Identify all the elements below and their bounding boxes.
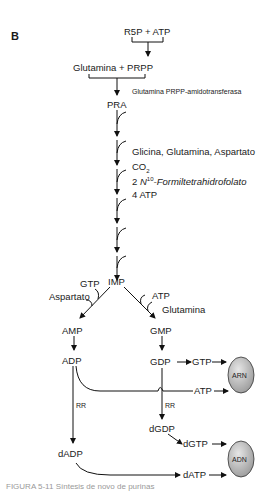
figure-caption: FIGURA 5-11 Síntesis de novo de purinas [6,482,154,491]
cofactor-atp: 4 ATP [132,190,157,200]
cofactor-gtp: GTP [80,279,100,289]
rr-right: RR [165,402,175,409]
cofactor-co2: CO2 [132,162,150,174]
cofactor-glutamina: Glutamina [162,305,205,315]
enzyme-label: Glutamina PRPP-amidotransferasa [132,88,241,95]
cofactor-formyl: 2 N10-Formiltetrahidrofolato [132,176,246,187]
node-glutamina-prpp: Glutamina + PRPP [73,63,153,73]
node-pra: PRA [107,100,127,110]
node-atp: ATP [194,386,212,396]
node-gdp: GDP [150,357,171,367]
node-dadp: dADP [58,449,83,459]
cofactor-aspartato: Aspartato [49,292,90,302]
node-datp: dATP [183,470,206,480]
cofactor-atp-gmp: ATP [152,291,170,301]
cofactor-aminoacids: Glicina, Glutamina, Aspartato [132,147,255,157]
node-adn: ADN [232,456,247,463]
node-imp: IMP [108,277,125,287]
node-arn: ARN [232,372,247,379]
node-amp: AMP [62,326,83,336]
node-adp: ADP [62,356,82,366]
rr-left: RR [76,402,86,409]
node-gtp: GTP [192,357,212,367]
pathway-arrows [0,0,269,492]
node-dgdp: dGDP [149,424,175,434]
node-gmp: GMP [150,326,172,336]
node-r5p-atp: R5P + ATP [124,27,170,37]
node-dgtp: dGTP [183,439,208,449]
